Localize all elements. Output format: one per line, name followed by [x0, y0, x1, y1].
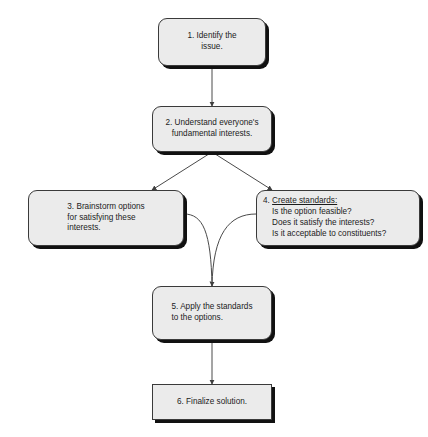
connector-step3-to-step5 [184, 214, 212, 286]
node-step-5-label: 5. Apply the standards to the options. [165, 302, 258, 324]
node-step-4-number: 4. [263, 196, 272, 205]
node-step-1-label: 1. Identify the issue. [181, 31, 242, 53]
connector-step4-to-step5 [212, 214, 256, 286]
connector-step2-to-step4 [152, 152, 212, 190]
node-step-1[interactable]: 1. Identify the issue. [158, 18, 266, 66]
node-step-2-label: 2. Understand everyone's fundamental int… [159, 118, 264, 140]
node-step-4-heading: Create standards: [272, 196, 337, 205]
node-step-3-label: 3. Brainstorm options for satisfying the… [61, 202, 150, 235]
node-step-4[interactable]: 4. Create standards: Is the option feasi… [256, 190, 420, 246]
node-step-2[interactable]: 2. Understand everyone's fundamental int… [152, 106, 272, 152]
flowchart-canvas: 1. Identify the issue. 2. Understand eve… [0, 0, 428, 437]
node-step-4-questions: Is the option feasible? Does it satisfy … [263, 207, 386, 240]
node-step-6[interactable]: 6. Finalize solution. [152, 384, 272, 420]
node-step-5[interactable]: 5. Apply the standards to the options. [152, 286, 272, 340]
node-step-3[interactable]: 3. Brainstorm options for satisfying the… [28, 190, 184, 246]
node-step-4-content: 4. Create standards: Is the option feasi… [257, 185, 392, 251]
node-step-6-label: 6. Finalize solution. [171, 397, 253, 408]
